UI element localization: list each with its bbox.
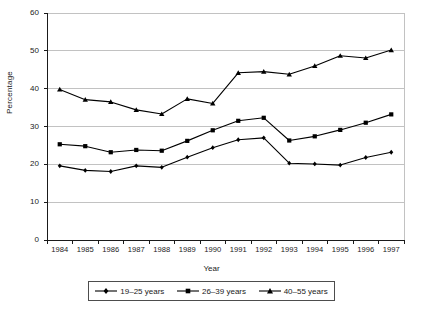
- y-tick-label: 30: [9, 123, 39, 131]
- legend-item-19-25[interactable]: 19–25 years: [95, 286, 164, 296]
- y-axis-ticks: [44, 13, 48, 240]
- x-axis-title: Year: [0, 264, 423, 273]
- line-chart: Percentage Year 6050403020100 1984198519…: [0, 0, 423, 311]
- diamond-marker-icon: [95, 286, 117, 296]
- data-series-layer: [57, 47, 394, 173]
- series-3: [57, 47, 394, 116]
- y-tick-label: 10: [9, 198, 39, 206]
- triangle-marker-icon: [259, 286, 281, 296]
- y-tick-label: 60: [9, 9, 39, 17]
- x-axis-ticks: [47, 240, 404, 244]
- chart-legend: 19–25 years 26–39 years 40–55 years: [88, 281, 335, 301]
- series-1: [58, 135, 394, 173]
- y-tick-label: 20: [9, 160, 39, 168]
- series-2: [58, 112, 394, 154]
- legend-label: 40–55 years: [284, 287, 328, 296]
- gridlines: [47, 13, 404, 202]
- square-marker-icon: [177, 286, 199, 296]
- y-tick-label: 0: [9, 236, 39, 244]
- legend-item-40-55[interactable]: 40–55 years: [259, 286, 328, 296]
- y-tick-label: 50: [9, 47, 39, 55]
- x-tick-label: 1997: [374, 246, 408, 254]
- legend-label: 26–39 years: [202, 287, 246, 296]
- y-tick-label: 40: [9, 85, 39, 93]
- legend-item-26-39[interactable]: 26–39 years: [177, 286, 246, 296]
- legend-label: 19–25 years: [120, 287, 164, 296]
